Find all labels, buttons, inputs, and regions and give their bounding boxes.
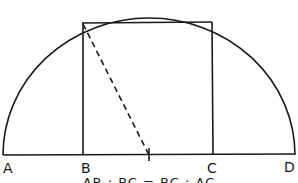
label-D: D	[284, 160, 295, 174]
square-right-side	[212, 22, 213, 154]
label-B: B	[81, 161, 91, 175]
label-C: C	[207, 161, 217, 175]
geometry-figure	[0, 0, 298, 183]
label-A: A	[3, 161, 13, 175]
square-top-side	[82, 22, 212, 23]
dashed-radius	[83, 24, 149, 155]
semicircle-arc	[3, 18, 295, 155]
diagram-canvas: A B C D AB : BC = BC : AC	[0, 0, 298, 183]
ratio-formula: AB : BC = BC : AC	[0, 176, 298, 183]
